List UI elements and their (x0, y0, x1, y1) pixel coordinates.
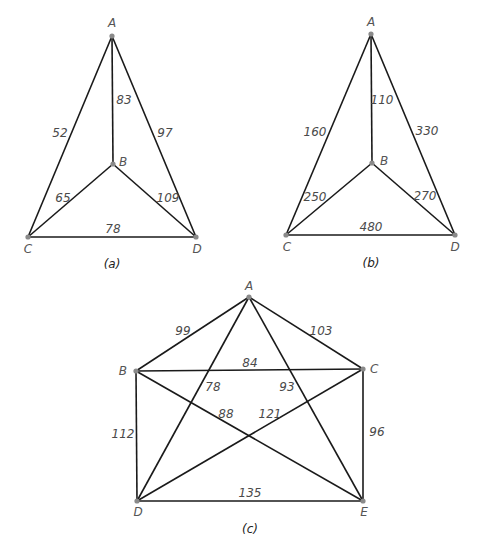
edge-B-D (113, 164, 196, 237)
vertex-label-C: C (283, 240, 292, 254)
edge-weight-A-B: 83 (116, 93, 131, 107)
vertex-label-D: D (192, 242, 201, 256)
edge-weight-B-D: 109 (157, 191, 180, 205)
edge-weight-B-C: 84 (242, 356, 257, 370)
vertex-D (193, 234, 198, 239)
edge-weight-C-D: 480 (360, 220, 383, 234)
edge-weight-A-C: 52 (52, 126, 67, 140)
edge-weight-A-D: 330 (416, 124, 439, 138)
graph-caption-a: (a) (104, 257, 121, 271)
edge-weight-A-E: 93 (279, 380, 294, 394)
graph-caption-b: (b) (363, 256, 380, 270)
vertex-A (109, 33, 114, 38)
edge-weight-C-E: 96 (369, 425, 385, 439)
edge-A-C (249, 297, 363, 369)
edge-weight-A-B: 99 (175, 324, 190, 338)
vertex-C (360, 366, 365, 371)
edge-A-E (249, 297, 363, 501)
vertex-label-C: C (370, 362, 379, 376)
edge-weight-A-D: 78 (205, 380, 221, 394)
vertex-B (133, 368, 138, 373)
graph-caption-c: (c) (242, 522, 258, 536)
vertex-A (246, 294, 251, 299)
edge-weight-B-C: 250 (304, 190, 327, 204)
edge-weight-A-B: 110 (371, 93, 394, 107)
graph-c: 991038478938812111296135ABCDE(c) (112, 279, 385, 536)
vertex-label-E: E (360, 505, 368, 519)
edge-weight-D-E: 135 (239, 486, 262, 500)
vertex-label-B: B (119, 155, 127, 169)
edge-B-D (136, 371, 137, 501)
graph-b: 160110330250270480ABCD(b) (283, 15, 460, 270)
vertex-label-A: A (244, 279, 253, 293)
edge-A-D (137, 297, 249, 501)
edge-weight-B-C: 65 (55, 191, 70, 205)
vertex-C (283, 232, 288, 237)
edge-A-C (28, 36, 112, 237)
edge-weight-C-D: 78 (105, 222, 121, 236)
edge-weight-A-C: 103 (310, 324, 333, 338)
vertex-A (368, 31, 373, 36)
vertex-label-B: B (380, 154, 388, 168)
edge-A-C (286, 34, 371, 235)
vertex-C (25, 234, 30, 239)
vertex-label-B: B (119, 364, 127, 378)
vertex-D (452, 232, 457, 237)
edge-A-B (112, 36, 113, 164)
vertex-label-D: D (133, 505, 142, 519)
graph-a: 5283976510978ABCD(a) (24, 16, 202, 271)
edge-weight-B-D: 112 (112, 427, 135, 441)
vertex-label-D: D (450, 240, 459, 254)
edge-weight-A-D: 97 (157, 126, 173, 140)
edge-weight-C-D: 121 (259, 407, 282, 421)
weighted-graphs-figure: 5283976510978ABCD(a) 160110330250270480A… (0, 0, 477, 552)
vertex-E (360, 498, 365, 503)
vertex-label-A: A (107, 16, 116, 30)
vertex-B (110, 161, 115, 166)
vertex-D (134, 498, 139, 503)
edge-A-D (371, 34, 455, 235)
edge-weight-B-D: 270 (414, 189, 437, 203)
edge-A-B (136, 297, 249, 371)
vertex-B (369, 160, 374, 165)
edge-weight-B-E: 88 (218, 407, 234, 421)
vertex-label-C: C (24, 242, 33, 256)
edge-A-D (112, 36, 196, 237)
vertex-label-A: A (366, 15, 375, 29)
edge-weight-A-C: 160 (304, 125, 327, 139)
